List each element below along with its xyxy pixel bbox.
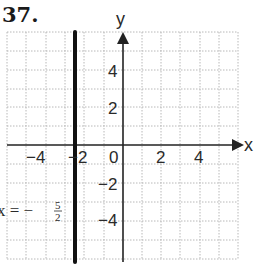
tick-x-0: 0 [109,148,118,167]
x-axis-label: x [244,135,253,155]
tick-y-neg4: −4 [98,211,117,230]
tick-x-neg4: −4 [26,148,45,167]
fraction-numerator: 5 [55,199,61,211]
tick-x-neg2: −2 [68,148,87,167]
tick-y-neg2: −2 [98,175,117,194]
tick-y-2: 2 [108,99,117,118]
equation-annotation: x = − 5 2 [0,199,62,223]
tick-y-4: 4 [108,62,117,81]
y-axis-arrow-icon [117,32,129,44]
fraction-denominator: 2 [55,211,61,223]
coordinate-plane: x y −4 −2 0 2 4 4 2 −2 −4 x = − 5 2 [0,0,254,264]
equation-prefix: x = − [0,201,33,220]
tick-x-4: 4 [194,148,203,167]
y-axis-label: y [116,9,125,29]
tick-x-2: 2 [156,148,165,167]
